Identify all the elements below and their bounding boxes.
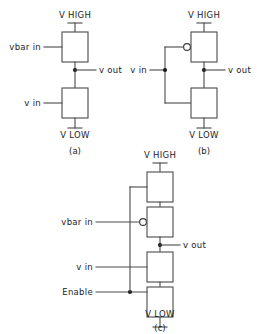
b-inverting-bubble-icon [184,44,191,51]
a-vhigh-label: V HIGH [59,11,91,20]
a-lower-device [62,88,88,118]
circuit-b-graphics [150,23,225,128]
circuit-c-graphics [96,163,180,327]
b-upper-device [191,32,217,62]
circuit-a-graphics [44,23,96,128]
b-v-in-label: v in [130,66,147,75]
c-inverting-bubble-icon [140,219,147,226]
c-device-1 [147,172,173,202]
c-caption: (c) [154,324,165,333]
a-upper-device [62,32,88,62]
a-vout-label: v out [99,66,122,75]
circuit-diagram-page: V HIGH vbar in v out v in V LOW (a) V HI… [0,0,261,334]
c-v-in-label: v in [76,263,93,272]
b-vout-label: v out [228,66,251,75]
c-enable-label: Enable [62,288,93,297]
c-device-2 [147,207,173,237]
b-v-in-junction-dot [163,68,167,72]
a-vbar-in-label: vbar in [9,43,41,52]
b-lower-device [191,88,217,118]
b-vhigh-label: V HIGH [188,11,220,20]
b-caption: (b) [198,147,210,156]
c-vout-label: v out [183,241,206,250]
c-vbar-in-label: vbar in [61,218,93,227]
c-device-3 [147,252,173,282]
a-caption: (a) [69,147,81,156]
a-v-in-label: v in [24,99,41,108]
b-vlow-label: V LOW [189,131,219,140]
c-vlow-label: V LOW [145,310,175,319]
c-vhigh-label: V HIGH [144,151,176,160]
a-vlow-label: V LOW [60,131,90,140]
